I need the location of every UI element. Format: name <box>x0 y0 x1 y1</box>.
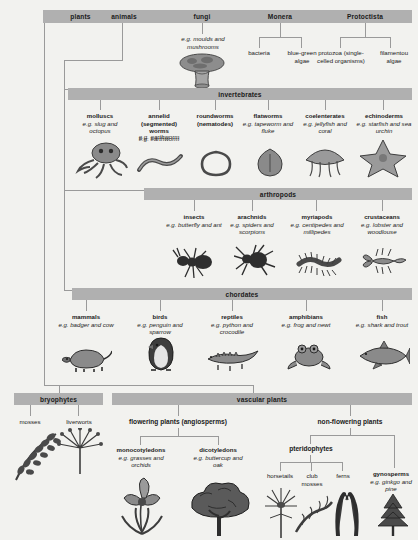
connector-animals-to-arthropods <box>64 190 144 191</box>
connector-gymnosperms <box>394 435 395 468</box>
connector-plants-to-bottom <box>44 385 253 386</box>
flowering-plants-heading: flowering plants (angiosperms) <box>110 418 246 426</box>
connector-animals-stem <box>122 23 123 60</box>
connector-ferns <box>342 462 343 471</box>
vascular-plants-bar: vascular plants <box>112 393 412 405</box>
connector-horsetails <box>280 462 281 471</box>
pteridophytes-heading: pteridophytes <box>282 445 340 453</box>
connector-moss <box>30 405 31 416</box>
flatworm-illustration <box>250 146 290 178</box>
chordate-group-amphibians: amphibians e.g. frog and newt <box>278 313 334 328</box>
pteridophyte-group-horsetails: horsetails <box>260 472 300 480</box>
connector-nonflowering-bracket <box>310 435 394 436</box>
classification-diagram: plants animals fungi Monera Protoctista … <box>0 0 418 540</box>
connector-monera-stem <box>280 23 281 37</box>
connector-clubmosses <box>311 462 312 471</box>
connector-nonflowering <box>350 405 351 416</box>
connector-pteridophytes-stem <box>310 455 311 462</box>
connector-inv-4 <box>325 100 326 110</box>
connector-monocot <box>140 436 141 445</box>
connector-art-2 <box>316 200 317 211</box>
connector-protoctista-left <box>340 37 341 48</box>
clubmoss-illustration <box>294 492 334 536</box>
connector-protoctista-stem <box>365 23 366 37</box>
pine-illustration <box>374 494 412 536</box>
liverwort-illustration <box>56 428 104 476</box>
connector-inv-5 <box>383 100 384 110</box>
earthworm-illustration <box>136 150 184 178</box>
connector-protoctista-bracket <box>340 37 390 38</box>
crocodile-illustration <box>206 345 260 371</box>
connector-art-1 <box>252 200 253 211</box>
kingdom-label-animals: animals <box>88 10 160 23</box>
horsetail-illustration <box>264 488 298 538</box>
connector-bryophytes-drop <box>59 385 60 393</box>
connector-chd-1 <box>160 300 161 311</box>
connector-inv-3 <box>268 100 269 110</box>
connector-flowering-stem <box>178 428 179 436</box>
orchid-illustration <box>116 472 168 536</box>
connector-inv-1 <box>159 100 160 110</box>
pteridophyte-group-clubmosses: club mosses <box>296 472 328 487</box>
protoctista-child-protozoa: protozoa (single-celled organisms) <box>314 49 368 64</box>
invertebrate-group-roundworms: roundworms (nematodes) <box>188 112 242 127</box>
protoctista-child-filamentous-algae: filamentou algae <box>372 49 416 64</box>
kingdom-label-protoctista: Protoctista <box>330 10 400 23</box>
connector-liverwort <box>78 405 79 416</box>
flowering-group-monocotyledons: monocotyledons e.g. grasses and orchids <box>112 446 170 469</box>
chordate-group-mammals: mammals e.g. badger and cow <box>58 313 114 328</box>
pteridophyte-group-ferns: ferns <box>328 472 358 480</box>
connector-nonflowering-stem <box>350 428 351 435</box>
oak-tree-illustration <box>188 468 250 536</box>
connector-fungi-stem <box>202 23 203 34</box>
arthropod-group-insects: insects e.g. butterfly and ant <box>166 213 222 228</box>
chordate-group-reptiles: reptiles e.g. python and crocodile <box>204 313 260 336</box>
moss-illustration <box>8 428 62 482</box>
connector-plants-stem <box>44 23 45 385</box>
connector-animals-to-chordates <box>64 290 72 291</box>
connector-monera-left <box>259 37 260 48</box>
lobster-illustration <box>362 244 408 278</box>
spider-illustration <box>234 243 276 277</box>
connector-flowering-bracket <box>140 436 218 437</box>
chordate-group-birds: birds e.g. penguin and sparrow <box>132 313 188 336</box>
connector-chd-0 <box>86 300 87 311</box>
connector-inv-0 <box>100 100 101 110</box>
connector-vascular-drop <box>253 385 254 393</box>
connector-art-3 <box>382 200 383 211</box>
connector-pteridophytes <box>310 435 311 444</box>
chordate-group-fish: fish e.g. shark and trout <box>354 313 410 328</box>
connector-animals-elbow <box>64 60 123 61</box>
kingdom-label-monera: Monera <box>250 10 310 23</box>
invertebrate-group-echinoderms: echinoderms e.g. starfish and sea urchin <box>356 112 412 135</box>
badger-illustration <box>62 340 112 372</box>
connector-protoctista-right <box>390 37 391 48</box>
non-flowering-plants-heading: non-flowering plants <box>294 418 406 426</box>
connector-art-0 <box>194 200 195 211</box>
invertebrate-group-coelenterates: coelenterates e.g. jellyfish and coral <box>297 112 353 135</box>
gymnosperms-group: gynosperms e.g. ginkgo and pine <box>366 470 416 493</box>
connector-flowering <box>178 405 179 416</box>
connector-chd-3 <box>306 300 307 311</box>
connector-animals-spine <box>64 60 65 290</box>
fern-illustration <box>330 488 364 536</box>
flowering-group-dicotyledons: dicotyledons e.g. buttercup and oak <box>190 446 246 469</box>
ant-illustration <box>172 245 216 279</box>
jellyfish-illustration <box>302 142 348 178</box>
penguin-illustration <box>144 336 178 372</box>
centipede-illustration <box>296 250 342 276</box>
connector-chd-4 <box>382 300 383 311</box>
bryophyte-group-liverworts: liverworts <box>58 418 100 426</box>
fungi-example: e.g. moulds and mushrooms <box>165 35 241 50</box>
connector-monera-bracket <box>259 37 301 38</box>
starfish-illustration <box>358 138 408 178</box>
invertebrate-group-flatworms: flatworms e.g. tapeworm and fluke <box>242 112 294 135</box>
arthropod-group-myriapods: myriapods e.g. centipedes and millipedes <box>288 213 346 236</box>
connector-chd-2 <box>232 300 233 311</box>
mushroom-illustration <box>176 52 228 88</box>
connector-dicot <box>218 436 219 445</box>
chordates-bar: chordates <box>72 288 412 300</box>
kingdom-label-fungi: fungi <box>172 10 232 23</box>
annelid-example-earthworm: e.g. earthworm <box>132 133 186 141</box>
bryophytes-bar: bryophytes <box>14 393 103 405</box>
